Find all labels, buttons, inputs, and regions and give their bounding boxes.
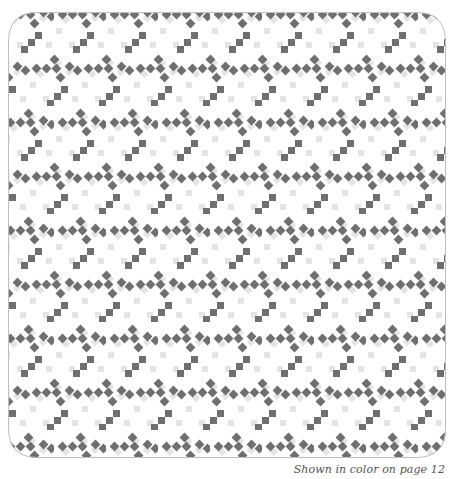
quilt-illustration — [8, 12, 446, 458]
caption-text: Shown in color on page 12 — [294, 463, 445, 476]
quilt-pattern-svg — [8, 12, 446, 458]
